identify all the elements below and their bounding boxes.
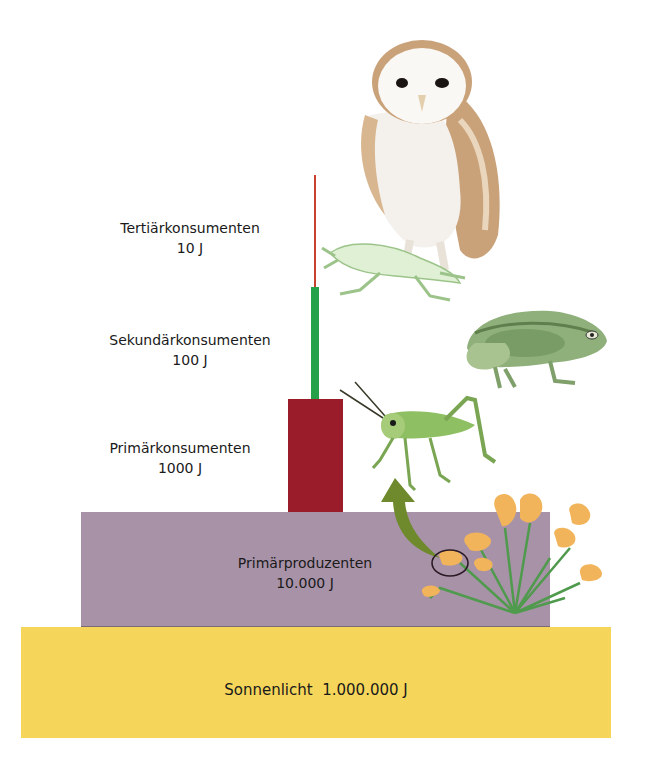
label-tertiary-consumers: Tertiärkonsumenten 10 J [100, 218, 280, 258]
poppy-plant-icon [420, 488, 620, 618]
label-sunlight: Sonnenlicht 1.000.000 J [21, 680, 611, 700]
label-tertiary-consumers-name: Tertiärkonsumenten [100, 218, 280, 238]
label-primary-producers-energy: 10.000 J [230, 573, 380, 593]
label-tertiary-consumers-energy: 10 J [100, 238, 280, 258]
label-secondary-consumers-name: Sekundärkonsumenten [90, 330, 290, 350]
label-primary-consumers-name: Primärkonsumenten [95, 438, 265, 458]
label-secondary-consumers-energy: 100 J [90, 350, 290, 370]
label-sunlight-text: Sonnenlicht 1.000.000 J [21, 680, 611, 700]
label-secondary-consumers: Sekundärkonsumenten 100 J [90, 330, 290, 370]
level-tertiary-consumers [314, 175, 316, 287]
label-primary-consumers: Primärkonsumenten 1000 J [95, 438, 265, 478]
level-secondary-consumers [311, 287, 319, 399]
label-primary-consumers-energy: 1000 J [95, 458, 265, 478]
frog-prey-icon [320, 228, 470, 303]
